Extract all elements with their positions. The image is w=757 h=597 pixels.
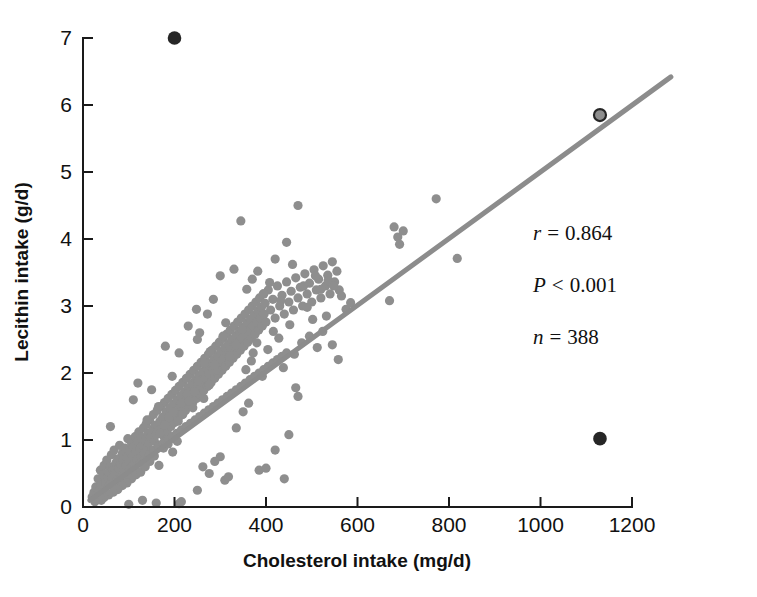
data-point — [293, 293, 302, 302]
data-point — [284, 297, 293, 306]
data-point — [142, 415, 151, 424]
data-point — [329, 281, 338, 290]
data-point — [138, 496, 147, 505]
data-point — [241, 365, 250, 374]
y-tick-label: 5 — [60, 160, 72, 183]
data-point — [210, 457, 219, 466]
data-point — [268, 295, 277, 304]
data-point — [293, 392, 302, 401]
data-point — [129, 395, 138, 404]
data-point — [316, 293, 325, 302]
y-tick-label: 2 — [60, 361, 72, 384]
data-point — [288, 260, 297, 269]
y-axis-title: Lecithin intake (g/d) — [11, 182, 32, 361]
annotation-sample-size-value: 388 — [567, 325, 599, 349]
annotation-sample-size-relation: = — [550, 325, 562, 349]
outlier-point — [593, 432, 607, 446]
data-point — [231, 340, 240, 349]
data-point — [395, 240, 404, 249]
y-tick-label: 6 — [60, 93, 72, 116]
data-point — [221, 318, 230, 327]
plot-area — [88, 31, 671, 509]
data-point — [303, 289, 312, 298]
data-point — [238, 325, 247, 334]
data-point — [303, 303, 312, 312]
data-point — [154, 402, 163, 411]
data-point — [216, 271, 225, 280]
data-point — [190, 387, 199, 396]
highlighted-point — [594, 109, 606, 121]
statistics-annotations: r=0.864 P<0.001 n=388 — [532, 221, 617, 349]
data-point — [168, 447, 177, 456]
data-point — [271, 313, 280, 322]
data-point — [316, 285, 325, 294]
data-point — [210, 360, 219, 369]
data-point — [155, 429, 164, 438]
data-point — [174, 348, 183, 357]
data-point — [206, 347, 215, 356]
scatter-plot-figure: 01234567 020040060080010001200 Cholester… — [0, 0, 757, 597]
data-point — [280, 474, 289, 483]
data-point — [205, 380, 214, 389]
data-point — [328, 340, 337, 349]
data-point — [193, 486, 202, 495]
data-point — [192, 305, 201, 314]
data-point — [209, 295, 218, 304]
y-axis-ticks: 01234567 — [60, 26, 93, 518]
data-point — [205, 469, 214, 478]
data-point — [313, 343, 322, 352]
data-point — [280, 309, 289, 318]
data-point — [253, 267, 262, 276]
y-tick-label: 3 — [60, 294, 72, 317]
y-tick-label: 0 — [60, 495, 72, 518]
data-point — [239, 407, 248, 416]
annotation-pvalue: P<0.001 — [532, 273, 617, 297]
data-point — [177, 497, 186, 506]
y-tick-label: 7 — [60, 26, 72, 49]
data-point — [282, 238, 291, 247]
data-point — [291, 273, 300, 282]
annotation-correlation-symbol: r — [533, 221, 542, 245]
data-point — [147, 385, 156, 394]
data-point — [274, 334, 283, 343]
data-point — [334, 355, 343, 364]
annotation-pvalue-relation: < — [552, 273, 564, 297]
data-point — [261, 464, 270, 473]
data-point — [271, 255, 280, 264]
data-point — [225, 352, 234, 361]
annotation-sample-size-symbol: n — [533, 325, 544, 349]
data-point — [453, 254, 462, 263]
data-point — [390, 222, 399, 231]
data-point — [284, 430, 293, 439]
data-point — [289, 305, 298, 314]
x-tick-label: 0 — [77, 513, 89, 536]
annotation-pvalue-symbol: P — [532, 273, 546, 297]
data-point — [169, 407, 178, 416]
data-point — [160, 421, 169, 430]
data-point — [161, 342, 170, 351]
data-point — [229, 265, 238, 274]
x-tick-label: 200 — [157, 513, 192, 536]
data-point — [259, 289, 268, 298]
data-point — [293, 201, 302, 210]
data-point — [319, 261, 328, 270]
data-point — [203, 309, 212, 318]
data-point — [399, 226, 408, 235]
data-point — [261, 317, 270, 326]
data-point — [252, 338, 261, 347]
data-point — [168, 372, 177, 381]
data-point — [263, 345, 272, 354]
data-point — [311, 271, 320, 280]
data-point — [242, 285, 251, 294]
data-point — [385, 296, 394, 305]
outlier-point — [168, 31, 182, 45]
data-point — [244, 399, 253, 408]
y-tick-label: 4 — [60, 227, 72, 250]
data-point — [178, 410, 187, 419]
x-tick-label: 400 — [248, 513, 283, 536]
annotation-correlation-value: 0.864 — [565, 221, 613, 245]
data-point — [300, 269, 309, 278]
x-tick-label: 1200 — [609, 513, 656, 536]
data-point — [185, 397, 194, 406]
data-point — [232, 423, 241, 432]
